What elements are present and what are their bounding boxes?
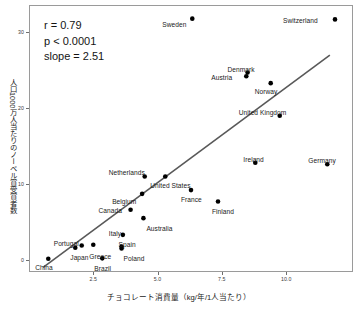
point-label: China: [35, 264, 52, 271]
data-point: [268, 81, 273, 86]
annotation-p: p < 0.0001: [44, 34, 104, 50]
data-point: [190, 16, 195, 21]
point-label: United States: [150, 182, 190, 189]
point-label: Greece: [89, 253, 111, 260]
y-tick-label: 30: [13, 29, 24, 35]
x-tick-mark: [222, 272, 223, 275]
point-label: Switzerland: [283, 17, 318, 24]
point-label: Portugal: [54, 240, 79, 247]
regression-trendline: [43, 55, 330, 267]
data-point: [121, 233, 126, 238]
point-label: France: [181, 196, 202, 203]
point-label: Sweden: [162, 21, 186, 28]
point-label: Germany: [308, 157, 335, 164]
data-point: [79, 243, 84, 248]
y-axis-title: 人口1000万人当たりのノーベル賞受賞者数: [3, 46, 16, 246]
point-label: United Kingdom: [239, 109, 287, 116]
y-tick-label: 0: [13, 257, 24, 263]
data-point: [333, 17, 338, 22]
point-label: Netherlands: [109, 169, 145, 176]
data-point: [163, 174, 168, 179]
y-tick-mark: [26, 32, 29, 33]
x-axis-title: チョコレート消費量（kg/年/1人当たり）: [0, 291, 358, 302]
data-point: [141, 216, 146, 221]
annotation-slope: slope = 2.51: [44, 49, 104, 65]
data-point: [244, 74, 249, 79]
point-label: Canada: [99, 207, 122, 214]
x-tick-mark: [158, 272, 159, 275]
x-tick-mark: [286, 272, 287, 275]
point-label: Poland: [124, 255, 145, 262]
point-label: Brazil: [94, 265, 111, 272]
point-label: Australia: [146, 225, 172, 232]
point-label: Belgium: [112, 198, 136, 205]
point-label: Norway: [255, 88, 278, 95]
point-label: Ireland: [243, 156, 264, 163]
y-tick-mark: [26, 108, 29, 109]
x-tick-label: 7.5: [218, 276, 226, 282]
point-label: Austria: [211, 74, 232, 81]
y-tick-mark: [26, 260, 29, 261]
data-point: [128, 208, 133, 213]
point-label: Finland: [212, 208, 234, 215]
x-tick-label: 10.0: [281, 276, 292, 282]
data-point: [216, 199, 221, 204]
point-label: Spain: [119, 241, 136, 248]
statistics-annotation: r = 0.79 p < 0.0001 slope = 2.51: [44, 18, 104, 65]
chart-root: 2.55.07.510.00102030 ChinaJapanPortugalB…: [0, 0, 358, 311]
x-tick-label: 2.5: [90, 276, 98, 282]
point-label: Denmark: [228, 66, 255, 73]
y-tick-mark: [26, 184, 29, 185]
x-tick-label: 5.0: [154, 276, 162, 282]
x-tick-mark: [93, 272, 94, 275]
data-point: [46, 256, 51, 261]
data-point: [91, 242, 96, 247]
point-label: Japan: [70, 254, 88, 261]
data-point: [140, 192, 145, 197]
point-label: Italy: [109, 230, 121, 237]
annotation-r: r = 0.79: [44, 18, 104, 34]
